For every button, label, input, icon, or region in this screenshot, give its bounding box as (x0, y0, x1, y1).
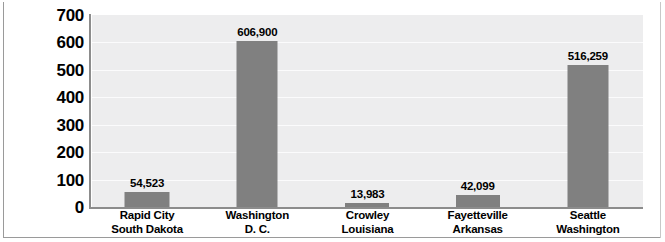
bar-value-label: 516,259 (568, 50, 608, 62)
y-axis-tick-200: 200 (32, 144, 84, 161)
y-axis-tick-500: 500 (32, 62, 84, 79)
y-axis-tick-0: 0 (32, 199, 84, 216)
x-axis-label-line1: Fayetteville (448, 209, 508, 221)
bar[interactable] (567, 65, 608, 207)
x-axis-label: WashingtonD. C. (202, 209, 312, 236)
x-axis-label-line2: D. C. (202, 223, 312, 237)
x-axis-label-line1: Crowley (346, 209, 389, 221)
bar[interactable] (456, 195, 500, 207)
x-axis-label-line2: Louisiana (312, 223, 422, 237)
population-bar-chart: Population (In Thousands) 70060050040030… (0, 0, 665, 242)
bar-value-label: 606,900 (237, 26, 277, 38)
y-axis-tick-100: 100 (32, 172, 84, 189)
x-axis-label: CrowleyLouisiana (312, 209, 422, 236)
bar-slot: 516,259 (533, 15, 643, 207)
x-axis-label-line2: Arkansas (423, 223, 533, 237)
y-axis-tick-300: 300 (32, 117, 84, 134)
y-axis-tick-600: 600 (32, 34, 84, 51)
bar-slot: 606,900 (202, 15, 312, 207)
bar-slot: 13,983 (312, 15, 422, 207)
x-axis-label-line1: Seattle (570, 209, 606, 221)
y-axis-line (89, 14, 91, 208)
bar-series: 54,523606,90013,98342,099516,259 (92, 15, 643, 207)
x-axis-label-line1: Washington (226, 209, 289, 221)
x-axis-label: FayettevilleArkansas (423, 209, 533, 236)
figure-border-right (660, 2, 661, 238)
bar-value-label: 13,983 (350, 188, 384, 200)
y-axis-tick-400: 400 (32, 89, 84, 106)
x-axis-label: Rapid CitySouth Dakota (92, 209, 202, 236)
x-axis-label-line2: Washington (533, 223, 643, 237)
bar[interactable] (125, 192, 170, 207)
bar[interactable] (237, 41, 278, 207)
x-axis-label: SeattleWashington (533, 209, 643, 236)
bar[interactable] (345, 203, 389, 207)
figure-border-left (3, 2, 4, 238)
bar-slot: 54,523 (92, 15, 202, 207)
x-axis-label-line1: Rapid City (120, 209, 175, 221)
x-axis-label-line2: South Dakota (92, 223, 202, 237)
y-axis-tick-labels: 7006005004003002001000 (32, 7, 84, 215)
bar-value-label: 42,099 (461, 180, 495, 192)
x-axis-category-labels: Rapid CitySouth DakotaWashingtonD. C.Cro… (92, 209, 643, 239)
y-axis-tick-700: 700 (32, 7, 84, 24)
bar-value-label: 54,523 (130, 177, 164, 189)
bar-slot: 42,099 (423, 15, 533, 207)
